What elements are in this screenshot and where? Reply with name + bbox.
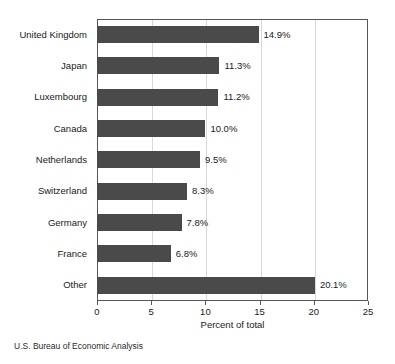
bar [97,277,315,294]
bar-band [97,144,368,175]
value-label: 6.8% [176,249,198,259]
bar [97,151,200,168]
value-label: 9.5% [205,155,227,165]
source-note: U.S. Bureau of Economic Analysis [14,341,143,351]
x-tick-label: 15 [245,306,275,317]
x-tick-label: 10 [190,306,220,317]
bar [97,183,187,200]
category-label: Japan [0,61,87,71]
bar-band [97,238,368,269]
bar-band [97,19,368,50]
x-tick-label: 20 [299,306,329,317]
x-axis-title: Percent of total [97,319,368,330]
x-tick-mark [205,301,206,305]
category-label: Netherlands [0,155,87,165]
x-tick-mark [260,301,261,305]
x-tick-mark [368,301,369,305]
bar [97,89,218,106]
bar [97,57,219,74]
category-label: Other [0,280,87,290]
value-label: 10.0% [210,124,237,134]
bar [97,26,259,43]
value-label: 8.3% [192,186,214,196]
category-label: United Kingdom [0,30,87,40]
bar-band [97,207,368,238]
x-tick-mark [314,301,315,305]
bar [97,214,182,231]
value-label: 7.8% [187,218,209,228]
category-label: Luxembourg [0,92,87,102]
value-label: 11.3% [224,61,250,71]
value-label: 20.1% [320,280,347,290]
bar [97,120,205,137]
category-label: Switzerland [0,186,87,196]
x-tick-label: 5 [136,306,166,317]
category-label: France [0,249,87,259]
category-label: Canada [0,124,87,134]
chart-figure: United KingdomJapanLuxembourgCanadaNethe… [0,0,395,364]
value-label: 14.9% [264,30,291,40]
x-tick-mark [151,301,152,305]
value-label: 11.2% [223,92,249,102]
x-tick-label: 25 [353,306,383,317]
bar-band [97,176,368,207]
bar [97,245,171,262]
category-label: Germany [0,218,87,228]
x-tick-label: 0 [82,306,112,317]
x-tick-mark [97,301,98,305]
